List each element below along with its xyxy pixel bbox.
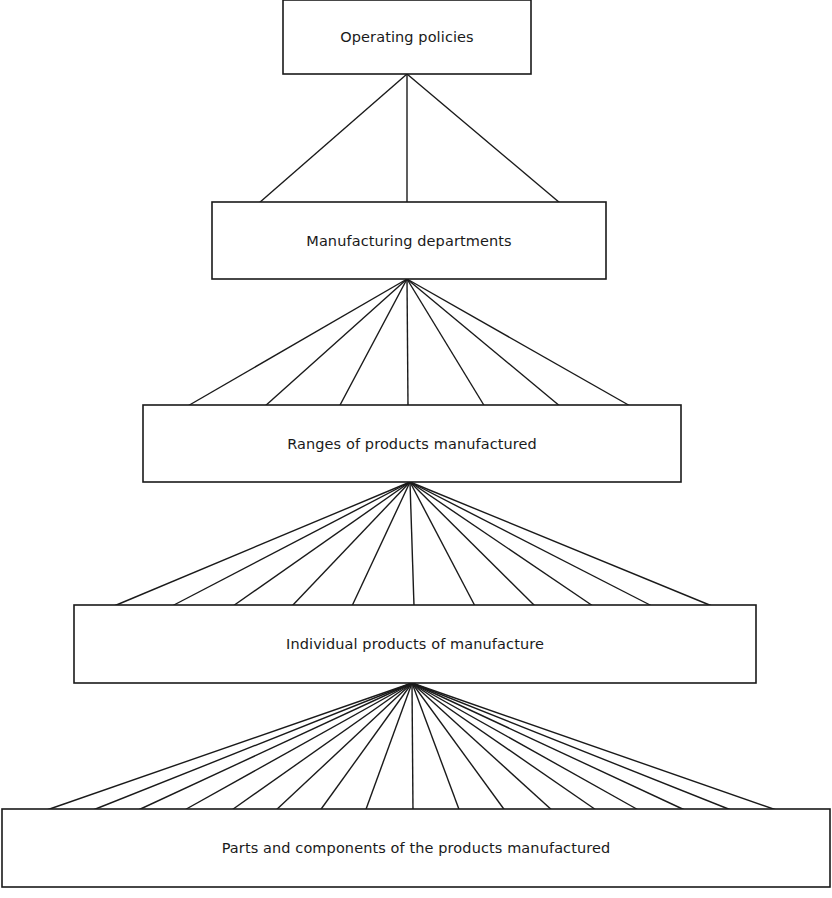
connector-line <box>410 482 414 606</box>
connector-line <box>407 279 561 407</box>
connector-line <box>41 683 412 812</box>
connector-line <box>292 482 410 606</box>
connector-line <box>233 482 410 606</box>
connector-line <box>229 683 412 812</box>
level-label-individual-products: Individual products of manufacture <box>286 636 544 652</box>
connector-line <box>407 279 408 407</box>
connector-line <box>352 482 410 606</box>
connector-line <box>88 683 412 812</box>
connector-line <box>410 482 475 606</box>
connector-line <box>412 683 642 812</box>
connector-line <box>412 683 689 812</box>
connector-line <box>114 482 410 606</box>
level-label-manufacturing-departments: Manufacturing departments <box>306 233 511 249</box>
connector-line <box>410 482 652 606</box>
connector-line <box>134 683 412 812</box>
level-label-operating-policies: Operating policies <box>340 29 474 45</box>
connector-line <box>412 683 599 812</box>
connector-line <box>410 482 593 606</box>
connector-line <box>407 279 632 407</box>
connector-line <box>407 74 560 203</box>
connector-line <box>410 482 712 606</box>
connector-line <box>186 279 407 407</box>
connector-line <box>407 279 485 407</box>
connector-line <box>412 683 554 812</box>
connector-line <box>172 482 410 606</box>
connector-line <box>259 74 407 203</box>
connector-line <box>412 683 736 812</box>
level-label-ranges-of-products: Ranges of products manufactured <box>287 436 537 452</box>
connector-line <box>412 683 413 812</box>
connector-line <box>365 683 412 812</box>
connector-line <box>412 683 782 812</box>
connector-line <box>274 683 412 812</box>
connector-line <box>181 683 412 812</box>
connector-line <box>319 683 412 812</box>
level-label-parts-and-components: Parts and components of the products man… <box>222 840 611 856</box>
connector-line <box>264 279 407 407</box>
connector-line <box>410 482 535 606</box>
